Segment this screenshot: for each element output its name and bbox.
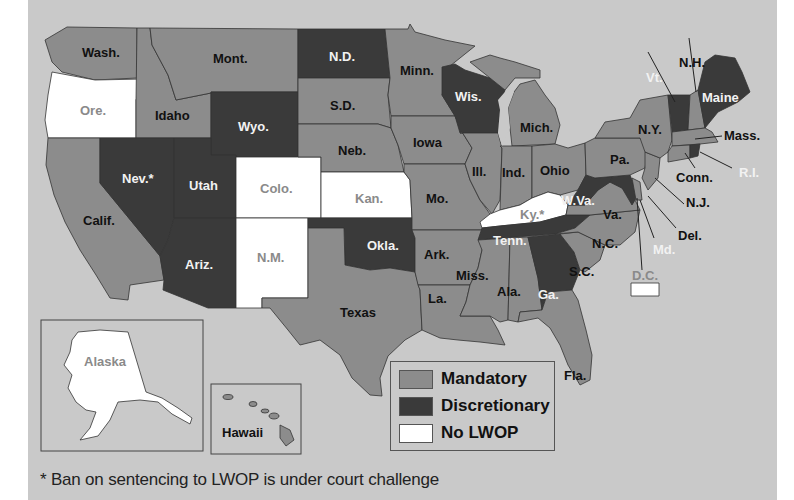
state-nj (642, 152, 660, 190)
svg-text:Md.: Md. (653, 242, 675, 257)
svg-text:Kan.: Kan. (355, 191, 383, 206)
svg-text:Ark.: Ark. (424, 247, 449, 262)
svg-text:Pa.: Pa. (610, 152, 630, 167)
svg-text:Ore.: Ore. (80, 103, 106, 118)
svg-text:Neb.: Neb. (338, 143, 366, 158)
state-mich (508, 80, 560, 146)
svg-text:Vt.: Vt. (646, 70, 663, 85)
legend-item-no-lwop: No LWOP (399, 422, 518, 444)
svg-text:Calif.: Calif. (83, 213, 115, 228)
svg-text:Ga.: Ga. (538, 287, 559, 302)
svg-text:Ill.: Ill. (472, 164, 486, 179)
svg-text:N.M.: N.M. (257, 250, 284, 265)
svg-text:Nev.*: Nev.* (122, 171, 154, 186)
svg-text:W.Va.: W.Va. (561, 193, 595, 208)
svg-text:Ohio: Ohio (540, 163, 570, 178)
svg-text:La.: La. (428, 291, 447, 306)
state-vt (668, 95, 690, 132)
svg-text:Ind.: Ind. (502, 165, 525, 180)
svg-text:Ariz.: Ariz. (185, 257, 213, 272)
legend-label-mandatory: Mandatory (441, 369, 527, 389)
svg-text:Mass.: Mass. (724, 128, 760, 143)
swatch-no-lwop (399, 424, 433, 443)
svg-text:Alaska: Alaska (84, 354, 127, 369)
svg-text:Mo.: Mo. (426, 191, 448, 206)
svg-text:Tenn.: Tenn. (493, 233, 527, 248)
svg-text:Maine: Maine (702, 90, 739, 105)
footnote: * Ban on sentencing to LWOP is under cou… (40, 470, 439, 490)
svg-text:D.C.: D.C. (632, 268, 658, 283)
state-conn (668, 145, 690, 162)
svg-text:N.Y.: N.Y. (638, 122, 662, 137)
svg-text:Fla.: Fla. (564, 368, 586, 383)
svg-text:S.C.: S.C. (569, 264, 594, 279)
svg-text:Colo.: Colo. (260, 181, 293, 196)
svg-text:Va.: Va. (603, 207, 622, 222)
legend-item-mandatory: Mandatory (399, 368, 527, 390)
legend-label-no-lwop: No LWOP (441, 423, 518, 443)
svg-text:Wyo.: Wyo. (238, 119, 269, 134)
svg-text:Hawaii: Hawaii (222, 425, 263, 440)
legend-item-discretionary: Discretionary (399, 395, 550, 417)
svg-text:Wis.: Wis. (455, 89, 482, 104)
svg-text:Iowa: Iowa (413, 135, 443, 150)
svg-text:Utah: Utah (189, 178, 218, 193)
svg-text:Minn.: Minn. (400, 63, 434, 78)
state-ri (690, 144, 700, 158)
svg-text:Wash.: Wash. (82, 45, 120, 60)
svg-text:N.J.: N.J. (686, 195, 710, 210)
svg-text:Mont.: Mont. (213, 51, 248, 66)
svg-text:Del.: Del. (678, 228, 702, 243)
legend-label-discretionary: Discretionary (441, 396, 550, 416)
svg-text:Idaho: Idaho (155, 108, 190, 123)
svg-text:Ky.*: Ky.* (520, 207, 545, 222)
svg-text:Texas: Texas (340, 305, 376, 320)
svg-text:Miss.: Miss. (456, 268, 489, 283)
svg-text:R.I.: R.I. (739, 165, 759, 180)
svg-text:Okla.: Okla. (367, 238, 399, 253)
legend: Mandatory Discretionary No LWOP (390, 361, 555, 451)
svg-text:N.D.: N.D. (329, 49, 355, 64)
svg-text:S.D.: S.D. (330, 98, 355, 113)
svg-text:Mich.: Mich. (520, 120, 553, 135)
svg-text:N.H.: N.H. (679, 55, 705, 70)
swatch-mandatory (399, 370, 433, 389)
svg-text:Conn.: Conn. (676, 170, 713, 185)
svg-text:Ala.: Ala. (497, 284, 521, 299)
svg-text:N.C.: N.C. (592, 236, 618, 251)
swatch-discretionary (399, 397, 433, 416)
state-dc (631, 283, 659, 296)
